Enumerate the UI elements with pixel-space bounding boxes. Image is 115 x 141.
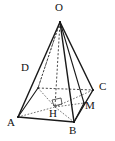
vertex-label-D: D xyxy=(21,62,29,73)
vertex-label-O: O xyxy=(55,2,63,13)
edge-AB xyxy=(18,117,74,122)
vertex-label-B: B xyxy=(69,125,76,136)
edge-BM xyxy=(74,103,84,122)
vertex-dot-D xyxy=(37,87,39,89)
right-angle-marker xyxy=(52,98,62,106)
vertex-dot-C xyxy=(92,89,94,91)
vertex-label-C: C xyxy=(99,81,106,92)
geometry-figure: O D C M H A B xyxy=(0,0,115,141)
vertex-label-M: M xyxy=(85,100,95,111)
vertex-dot-A xyxy=(17,116,19,118)
edge-DH xyxy=(38,88,55,107)
vertex-dot-B xyxy=(73,121,75,123)
vertex-label-H: H xyxy=(49,108,57,119)
edge-DC xyxy=(38,88,93,90)
edge-HB xyxy=(55,107,74,122)
vertex-dot-O xyxy=(59,21,61,23)
pyramid-diagram-svg xyxy=(0,0,115,141)
right-angle-square xyxy=(52,98,62,106)
vertex-label-A: A xyxy=(7,117,15,128)
